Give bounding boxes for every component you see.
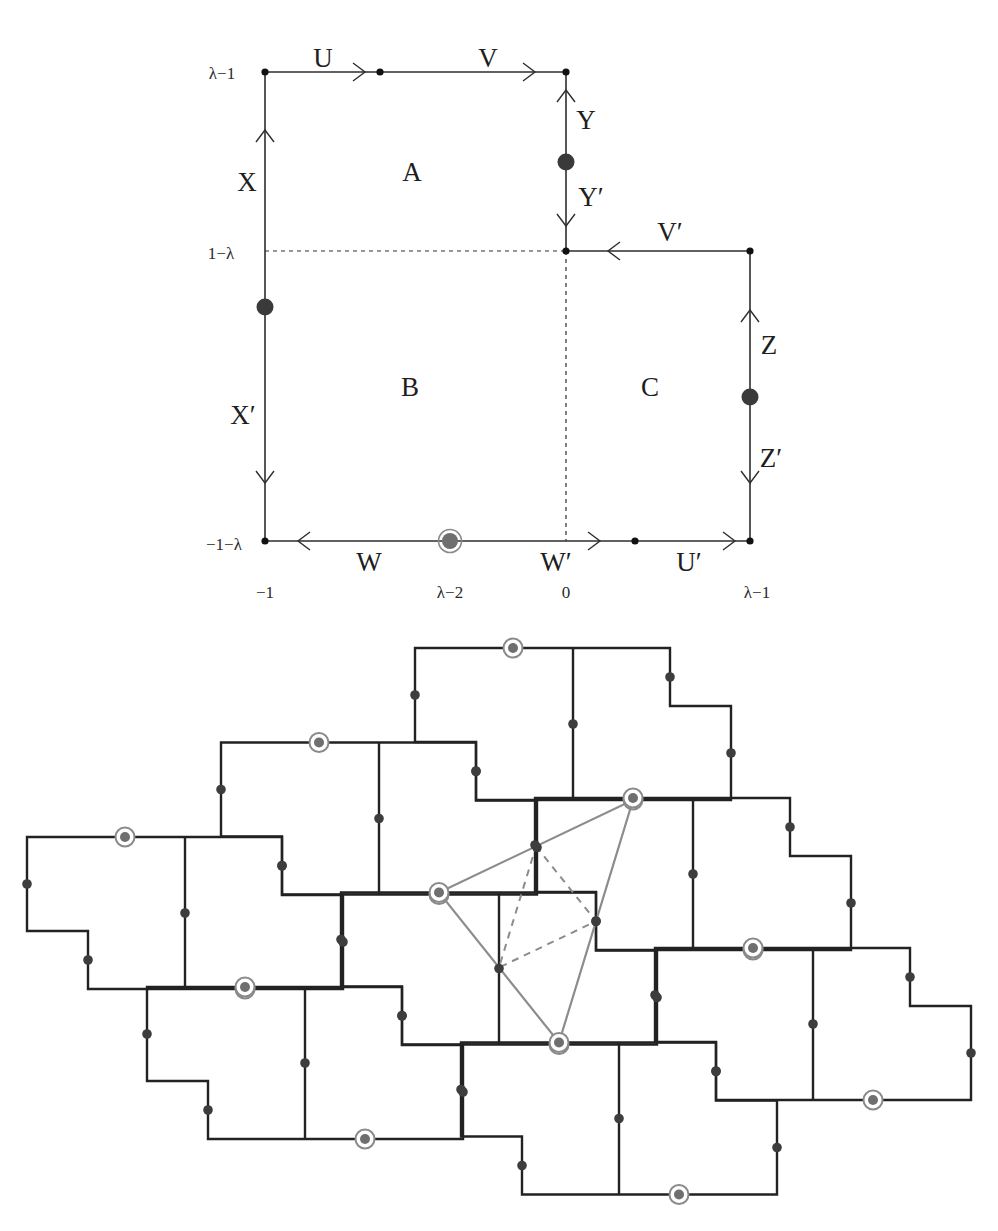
edge-label: X bbox=[237, 167, 257, 197]
edge-midpoint-dot bbox=[494, 964, 504, 974]
region-label: A bbox=[402, 157, 422, 187]
circled-marker-dot bbox=[434, 888, 444, 898]
vertex-dot bbox=[261, 68, 268, 75]
circled-marker-dot bbox=[442, 533, 458, 549]
edge-midpoint-dot bbox=[277, 861, 287, 871]
edge-midpoint-dot bbox=[846, 898, 856, 908]
x-tick-label: λ−2 bbox=[437, 583, 463, 602]
edge-midpoint-dot bbox=[83, 955, 93, 965]
vertex-dot bbox=[746, 247, 753, 254]
edge-midpoint-dot bbox=[726, 748, 736, 758]
circled-marker-dot bbox=[628, 793, 638, 803]
edge-label: X′ bbox=[230, 400, 255, 430]
edge-midpoint-dot bbox=[808, 1019, 818, 1029]
circled-marker-dot bbox=[674, 1190, 684, 1200]
edge-midpoint-dot bbox=[966, 1048, 976, 1058]
edge-midpoint-dot bbox=[257, 299, 274, 316]
y-tick-label: −1−λ bbox=[206, 535, 243, 554]
background bbox=[0, 0, 998, 1231]
edge-midpoint-dot bbox=[568, 719, 578, 729]
y-tick-label: 1−λ bbox=[208, 244, 235, 263]
edge-midpoint-dot bbox=[688, 869, 698, 879]
circled-marker-dot bbox=[508, 643, 518, 653]
edge-midpoint-dot bbox=[471, 767, 481, 777]
edge-midpoint-dot bbox=[374, 814, 384, 824]
edge-midpoint-dot bbox=[142, 1029, 152, 1039]
vertex-dot bbox=[746, 537, 753, 544]
x-tick-label: −1 bbox=[256, 583, 274, 602]
edge-midpoint-dot bbox=[742, 389, 759, 406]
edge-midpoint-dot bbox=[336, 935, 346, 945]
edge-label: Y′ bbox=[578, 182, 603, 212]
edge-label: Z′ bbox=[760, 443, 782, 473]
edge-midpoint-dot bbox=[300, 1058, 310, 1068]
circled-marker-dot bbox=[868, 1095, 878, 1105]
edge-midpoint-dot bbox=[614, 1114, 624, 1124]
edge-midpoint-dot bbox=[711, 1067, 721, 1077]
x-tick-label: λ−1 bbox=[744, 583, 770, 602]
edge-label: U bbox=[313, 43, 333, 73]
edge-label: Y bbox=[576, 105, 596, 135]
edge-midpoint-dot bbox=[216, 785, 226, 795]
edge-midpoint-dot bbox=[180, 908, 190, 918]
edge-label: U′ bbox=[676, 547, 701, 577]
edge-midpoint-dot bbox=[785, 822, 795, 832]
edge-midpoint-dot bbox=[905, 972, 915, 982]
edge-label: W bbox=[356, 547, 382, 577]
circled-marker-dot bbox=[240, 982, 250, 992]
edge-midpoint-dot bbox=[772, 1143, 782, 1153]
edge-label: V′ bbox=[657, 217, 682, 247]
vertex-dot bbox=[562, 68, 569, 75]
edge-label: W′ bbox=[540, 547, 571, 577]
edge-midpoint-dot bbox=[591, 917, 601, 927]
edge-midpoint-dot bbox=[203, 1105, 213, 1115]
region-label: C bbox=[641, 372, 659, 402]
y-tick-label: λ−1 bbox=[209, 64, 235, 83]
vertex-dot bbox=[376, 68, 383, 75]
edge-label: Z bbox=[761, 330, 778, 360]
vertex-dot bbox=[562, 247, 569, 254]
edge-midpoint-dot bbox=[22, 879, 32, 889]
region-label: B bbox=[401, 372, 419, 402]
edge-midpoint-dot bbox=[517, 1161, 527, 1171]
edge-midpoint-dot bbox=[665, 672, 675, 682]
edge-midpoint-dot bbox=[650, 990, 660, 1000]
vertex-dot bbox=[631, 537, 638, 544]
circled-marker-dot bbox=[314, 738, 324, 748]
circled-marker-dot bbox=[120, 832, 130, 842]
x-tick-label: 0 bbox=[562, 583, 571, 602]
circled-marker-dot bbox=[360, 1134, 370, 1144]
circled-marker-dot bbox=[748, 943, 758, 953]
figure-canvas: UVXYY′V′ZZ′X′WW′U′ABCλ−11−λ−1−λ−1λ−20λ−1 bbox=[0, 0, 998, 1231]
edge-midpoint-dot bbox=[410, 690, 420, 700]
edge-midpoint-dot bbox=[397, 1011, 407, 1021]
circled-marker-dot bbox=[554, 1038, 564, 1048]
edge-midpoint-dot bbox=[456, 1085, 466, 1095]
edge-midpoint-dot bbox=[530, 840, 540, 850]
vertex-dot bbox=[261, 537, 268, 544]
edge-label: V bbox=[478, 43, 498, 73]
edge-midpoint-dot bbox=[558, 154, 575, 171]
